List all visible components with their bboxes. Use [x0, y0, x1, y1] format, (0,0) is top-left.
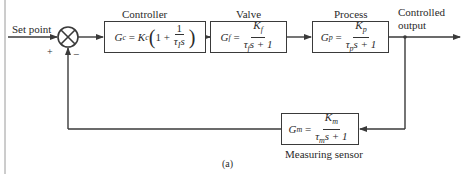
- process-fraction: Kp τps + 1: [344, 19, 379, 54]
- controlled-output-label-line2: output: [398, 20, 426, 31]
- process-block: Gp = Kp τps + 1: [312, 21, 389, 53]
- process-lhs: G: [321, 31, 329, 43]
- controller-close-paren: ): [189, 27, 196, 47]
- controller-title: Controller: [122, 9, 167, 20]
- measuring-fraction: Km τms + 1: [313, 111, 349, 146]
- controller-one-plus: 1 +: [155, 31, 169, 43]
- process-denominator: τps + 1: [344, 38, 379, 55]
- measuring-lhs: G: [288, 123, 296, 135]
- figure-caption: (a): [222, 159, 233, 169]
- process-eq: =: [335, 31, 341, 43]
- minus-sign: −: [73, 49, 79, 60]
- process-lhs-sub: p: [329, 33, 333, 42]
- controlled-output-label-line1: Controlled: [398, 7, 445, 18]
- measuring-numerator: Km: [323, 111, 340, 129]
- process-numerator: Kp: [353, 19, 368, 37]
- measuring-sensor-title: Measuring sensor: [285, 149, 363, 160]
- valve-eq: =: [233, 31, 239, 43]
- controller-gain: K: [138, 31, 145, 43]
- measuring-sensor-block: Gm = Km τms + 1: [281, 113, 359, 145]
- controller-denominator: τIs: [172, 35, 187, 52]
- valve-denominator: τfs + 1: [242, 38, 275, 55]
- measuring-eq: =: [305, 123, 311, 135]
- valve-numerator: Kf: [251, 19, 265, 37]
- measuring-lhs-sub: m: [296, 125, 302, 134]
- measuring-denominator: τms + 1: [313, 130, 349, 147]
- controller-eq: =: [129, 31, 135, 43]
- summing-junction-icon: [58, 27, 78, 47]
- valve-lhs: G: [220, 31, 228, 43]
- controller-block: Gc = Kc (1 + 1 τIs ): [104, 21, 206, 53]
- set-point-label: Set point: [12, 24, 51, 35]
- controller-numerator: 1: [175, 22, 185, 35]
- controller-open-paren: (: [149, 27, 156, 47]
- plus-sign: +: [47, 47, 53, 57]
- controller-lhs: G: [115, 31, 123, 43]
- valve-block: Gf = Kf τfs + 1: [210, 21, 287, 53]
- valve-lhs-sub: f: [228, 33, 230, 42]
- controller-fraction: 1 τIs: [172, 22, 187, 52]
- valve-fraction: Kf τfs + 1: [242, 19, 275, 54]
- controller-lhs-sub: c: [123, 33, 127, 42]
